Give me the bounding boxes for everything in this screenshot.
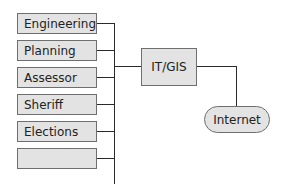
connector <box>97 158 115 159</box>
connector <box>197 66 237 67</box>
node-sheriff: Sheriff <box>17 94 97 115</box>
node-label: Planning <box>24 44 76 58</box>
node-blank <box>17 148 97 169</box>
connector <box>97 131 115 132</box>
node-planning: Planning <box>17 40 97 61</box>
node-label: Assessor <box>24 71 77 85</box>
node-engineering: Engineering <box>17 13 97 34</box>
node-label: Elections <box>24 125 78 139</box>
node-label: Engineering <box>24 17 96 31</box>
node-it-gis: IT/GIS <box>141 48 197 86</box>
node-label: Internet <box>213 113 261 127</box>
connector <box>97 50 115 51</box>
node-elections: Elections <box>17 121 97 142</box>
connector <box>97 77 115 78</box>
connector <box>97 23 115 24</box>
node-assessor: Assessor <box>17 67 97 88</box>
bus-line <box>114 23 115 184</box>
node-label: Sheriff <box>24 98 63 112</box>
connector <box>114 66 141 67</box>
node-label: IT/GIS <box>151 60 186 74</box>
connector <box>97 104 115 105</box>
node-internet: Internet <box>204 106 270 133</box>
connector <box>236 66 237 107</box>
